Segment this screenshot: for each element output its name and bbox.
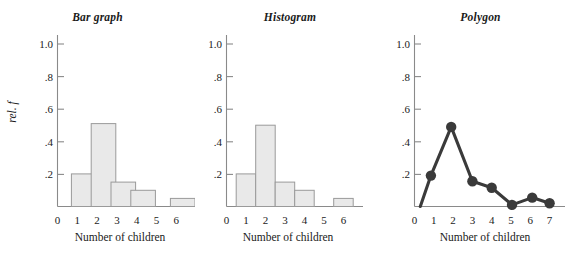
- y-tick-label: .6: [402, 103, 411, 115]
- bar-rect: [256, 125, 276, 206]
- bar-rect: [275, 182, 295, 206]
- y-tick-label: .2: [402, 168, 410, 180]
- x-axis-title: Number of children: [75, 231, 166, 243]
- x-tick-label: 3: [282, 214, 288, 226]
- y-tick-group: [58, 44, 65, 174]
- panel-bar-graph: Bar graph rel. f 1.0 .8 .6 .4 .2: [0, 0, 195, 255]
- y-tick-label: .6: [45, 103, 54, 115]
- x-tick-label: 3: [470, 214, 476, 226]
- x-tick-label: 5: [508, 214, 514, 226]
- x-axis-title: Number of children: [243, 231, 334, 243]
- y-tick-label: .6: [214, 103, 223, 115]
- y-tick-label: .4: [214, 136, 223, 148]
- statistics-figure: Bar graph rel. f 1.0 .8 .6 .4 .2: [0, 0, 576, 255]
- frequency-polygon-markers: [426, 122, 555, 210]
- bar-rect: [295, 190, 315, 206]
- x-tick-label: 1: [243, 214, 249, 226]
- x-tick-label: 5: [321, 214, 327, 226]
- x-axis-title: Number of children: [440, 231, 531, 243]
- data-point-marker: [544, 198, 554, 208]
- x-tick-label: 4: [134, 214, 140, 226]
- x-tick-label: 1: [431, 214, 437, 226]
- x-tick-label: 0: [224, 214, 230, 226]
- x-tick-label: 3: [114, 214, 120, 226]
- x-tick-label: 7: [547, 214, 553, 226]
- x-tick-label: 4: [302, 214, 308, 226]
- bar-graph-plot: rel. f 1.0 .8 .6 .4 .2 0: [0, 0, 195, 255]
- y-tick-label: .2: [45, 168, 53, 180]
- data-point-marker: [507, 200, 517, 210]
- bar-rect: [334, 198, 354, 206]
- y-tick-group: [227, 44, 234, 174]
- bar-rect: [236, 174, 256, 207]
- x-tick-label: 2: [263, 214, 269, 226]
- y-axis-title: rel. f: [6, 100, 19, 123]
- panel-histogram: Histogram 1.0 .8 .6 .4 .2: [195, 0, 385, 255]
- y-tick-label: .2: [214, 168, 222, 180]
- y-tick-label: 1.0: [39, 38, 53, 50]
- y-tick-label: .4: [45, 136, 54, 148]
- x-tick-label: 2: [450, 214, 456, 226]
- x-tick-label: 6: [174, 214, 180, 226]
- x-tick-label: 6: [341, 214, 347, 226]
- y-tick-label: .8: [402, 71, 411, 83]
- data-point-marker: [467, 176, 477, 186]
- x-tick-label: 6: [528, 214, 534, 226]
- data-point-marker: [527, 192, 537, 202]
- data-point-marker: [487, 183, 497, 193]
- y-tick-label: .8: [45, 71, 54, 83]
- x-tick-label: 0: [412, 214, 418, 226]
- y-tick-label: .8: [214, 71, 223, 83]
- y-tick-label: 1.0: [396, 38, 410, 50]
- data-point-marker: [446, 122, 456, 132]
- x-tick-label: 1: [75, 214, 81, 226]
- y-tick-label: 1.0: [208, 38, 222, 50]
- histogram-plot: 1.0 .8 .6 .4 .2 0 1 2 3 4 5 6 Number of …: [195, 0, 385, 255]
- x-tick-label: 2: [94, 214, 100, 226]
- y-tick-label: .4: [402, 136, 411, 148]
- x-tick-label: 5: [154, 214, 160, 226]
- x-tick-label: 0: [55, 214, 61, 226]
- y-tick-group: [415, 44, 422, 174]
- polygon-plot: 1.0 .8 .6 .4 .2 0 1 2 3 4 5 6: [385, 0, 576, 255]
- panel-polygon: Polygon 1.0 .8 .6 .4 .2: [385, 0, 576, 255]
- x-tick-label: 4: [489, 214, 495, 226]
- bar-rect: [131, 190, 156, 206]
- data-point-marker: [426, 170, 436, 180]
- bar-rect: [170, 198, 195, 206]
